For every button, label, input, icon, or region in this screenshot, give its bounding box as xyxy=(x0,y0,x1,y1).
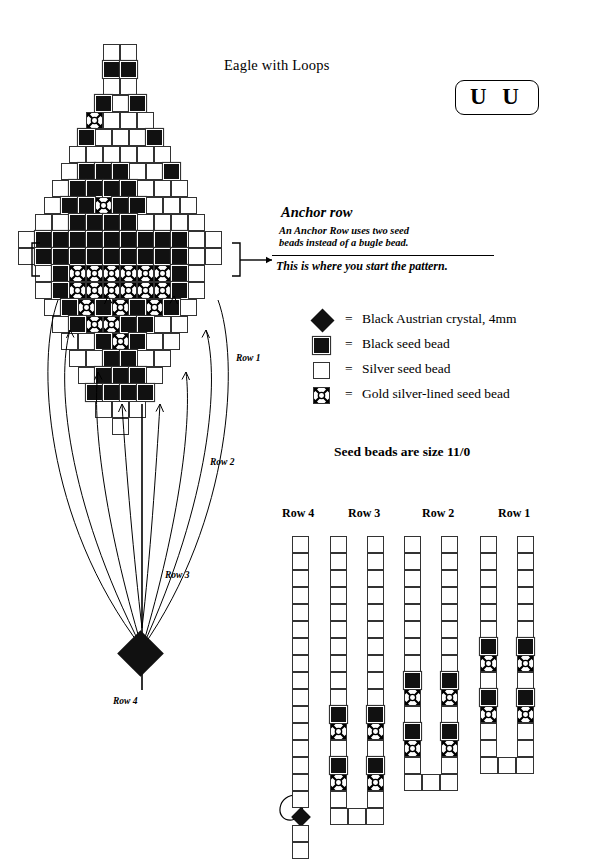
bead-silver xyxy=(367,638,384,655)
bead-silver xyxy=(330,553,347,570)
legend-swatch-gold xyxy=(312,385,332,405)
legend-label: Gold silver-lined seed bead xyxy=(362,386,510,402)
bead-silver xyxy=(517,723,534,740)
bead-silver xyxy=(367,740,384,757)
bead-silver xyxy=(348,808,366,825)
loop-label-row1: Row 1 xyxy=(236,353,261,363)
loop-label-row2: Row 2 xyxy=(210,457,235,467)
bead-silver xyxy=(330,689,347,706)
bead-silver xyxy=(517,604,534,621)
row-strip-diagrams: Row 4Row 3Row 2Row 1 xyxy=(270,500,600,844)
bead-silver xyxy=(480,621,497,638)
bead-black xyxy=(517,689,534,706)
bead-silver xyxy=(330,791,347,808)
bead-black xyxy=(330,757,347,774)
bead-silver xyxy=(292,774,309,791)
bead-gold xyxy=(441,740,458,757)
bead-silver xyxy=(480,553,497,570)
bead-silver xyxy=(292,689,309,706)
seed-bead-size-note: Seed beads are size 11/0 xyxy=(334,444,470,460)
bead-silver xyxy=(404,604,421,621)
legend-equals-sign: = xyxy=(345,386,353,402)
bead-gold xyxy=(330,723,347,740)
bead-silver xyxy=(517,672,534,689)
bead-silver xyxy=(330,655,347,672)
bead-silver xyxy=(441,655,458,672)
bead-black xyxy=(404,672,421,689)
bead-silver xyxy=(367,655,384,672)
bead-silver xyxy=(367,536,384,553)
bead-silver xyxy=(330,621,347,638)
legend-equals-sign: = xyxy=(345,311,353,327)
bead-silver xyxy=(480,536,497,553)
bead-silver xyxy=(367,570,384,587)
anchor-row-line2: beads instead of a bugle bead. xyxy=(279,237,409,249)
bead-silver xyxy=(367,621,384,638)
strip-label-row3: Row 3 xyxy=(348,506,380,521)
bead-silver xyxy=(367,553,384,570)
bead-silver xyxy=(292,825,309,842)
bead-silver xyxy=(480,570,497,587)
bead-silver xyxy=(441,553,458,570)
bead-silver xyxy=(404,536,421,553)
bead-gold xyxy=(517,655,534,672)
bead-silver xyxy=(441,604,458,621)
bead-silver xyxy=(404,757,421,774)
bead-silver xyxy=(404,553,421,570)
bead-silver xyxy=(292,638,309,655)
bead-silver xyxy=(480,723,497,740)
bead-gold xyxy=(313,387,330,404)
anchor-row-line1: An Anchor Row uses two seed xyxy=(279,225,409,237)
bead-silver xyxy=(292,842,309,859)
bead-black xyxy=(441,723,458,740)
bead-silver xyxy=(498,757,516,774)
bead-silver xyxy=(480,757,498,774)
bead-silver xyxy=(480,740,497,757)
bead-crystal xyxy=(292,808,309,825)
anchor-row-line3: This is where you start the pattern. xyxy=(276,259,448,274)
bead-black xyxy=(313,337,330,354)
bead-silver xyxy=(292,791,309,808)
bead-silver xyxy=(404,706,421,723)
bead-gold xyxy=(404,689,421,706)
bead-silver xyxy=(292,706,309,723)
bead-silver xyxy=(330,536,347,553)
bead-black xyxy=(367,706,384,723)
bead-silver xyxy=(367,604,384,621)
bead-gold xyxy=(480,655,497,672)
strip-label-row1: Row 1 xyxy=(498,506,530,521)
bead-silver xyxy=(330,570,347,587)
bead-silver xyxy=(367,791,384,808)
bead-silver xyxy=(330,604,347,621)
bead-silver xyxy=(292,604,309,621)
bead-black xyxy=(517,638,534,655)
bead-silver xyxy=(517,621,534,638)
bead-silver xyxy=(292,740,309,757)
bead-silver xyxy=(480,587,497,604)
loop-label-row3: Row 3 xyxy=(165,570,190,580)
legend-equals-sign: = xyxy=(345,361,353,377)
bead-silver xyxy=(517,553,534,570)
strip-label-row4: Row 4 xyxy=(282,506,314,521)
legend-swatch-silver xyxy=(312,360,332,380)
legend-swatch-black xyxy=(312,335,332,355)
legend: =Black Austrian crystal, 4mm=Black seed … xyxy=(312,310,592,460)
bead-black xyxy=(330,706,347,723)
bead-black xyxy=(441,672,458,689)
bead-silver xyxy=(330,808,348,825)
bead-silver xyxy=(517,570,534,587)
bead-silver xyxy=(404,638,421,655)
bead-silver xyxy=(404,587,421,604)
bead-silver xyxy=(441,587,458,604)
bead-gold xyxy=(330,774,347,791)
bead-silver xyxy=(480,604,497,621)
bead-black xyxy=(480,689,497,706)
bead-silver xyxy=(441,536,458,553)
bead-silver xyxy=(292,536,309,553)
bead-silver xyxy=(517,536,534,553)
bead-gold xyxy=(517,706,534,723)
bead-silver xyxy=(330,740,347,757)
bead-silver xyxy=(404,570,421,587)
bead-gold xyxy=(441,689,458,706)
bead-black xyxy=(367,757,384,774)
